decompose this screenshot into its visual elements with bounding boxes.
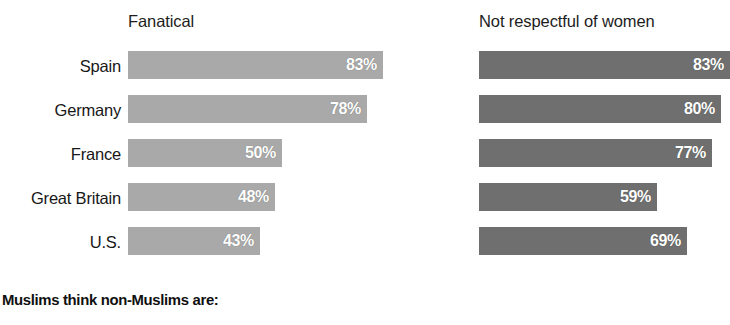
bar: 69%	[479, 227, 687, 255]
bar: 78%	[128, 95, 367, 123]
bar: 43%	[128, 227, 260, 255]
bar: 83%	[128, 51, 383, 79]
bar-value-label: 77%	[675, 145, 706, 161]
bar: 77%	[479, 139, 712, 167]
bar: 80%	[479, 95, 721, 123]
bar: 48%	[128, 183, 275, 211]
bar-value-label: 59%	[620, 189, 651, 205]
bar-value-label: 69%	[650, 233, 681, 249]
bar-value-label: 80%	[684, 101, 715, 117]
category-label-u-s: U.S.	[0, 234, 121, 251]
bar-value-label: 43%	[223, 233, 254, 249]
bar-value-label: 48%	[238, 189, 269, 205]
column-header-fanatical: Fanatical	[128, 13, 194, 30]
bar-value-label: 83%	[346, 57, 377, 73]
bar: 50%	[128, 139, 282, 167]
chart-caption: Muslims think non-Muslims are:	[2, 292, 218, 308]
chart-container: Fanatical Not respectful of women SpainG…	[0, 0, 730, 325]
category-label-germany: Germany	[0, 102, 121, 119]
column-header-not-respectful-of-women: Not respectful of women	[479, 13, 655, 30]
bar-value-label: 78%	[330, 101, 361, 117]
category-label-france: France	[0, 146, 121, 163]
bar-value-label: 50%	[245, 145, 276, 161]
bar: 83%	[479, 51, 730, 79]
bar-value-label: 83%	[693, 57, 724, 73]
category-label-great-britain: Great Britain	[0, 190, 121, 207]
category-label-spain: Spain	[0, 58, 121, 75]
bar: 59%	[479, 183, 657, 211]
